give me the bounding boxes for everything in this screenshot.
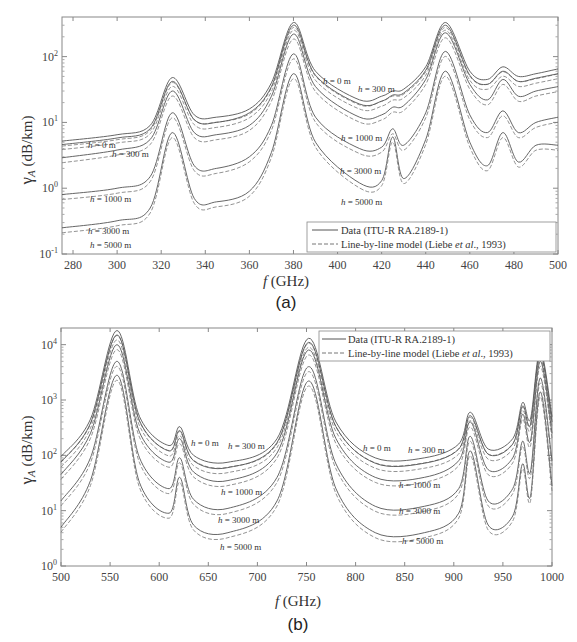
height-annotation: h = 3000 m (399, 506, 440, 516)
x-tick-label: 380 (284, 258, 302, 272)
panel-label-a: (a) (276, 293, 297, 312)
panel-label-b: (b) (288, 615, 309, 634)
height-annotation: h = 5000 m (402, 536, 443, 546)
x-tick-label: 420 (373, 258, 391, 272)
height-annotation: h = 3000 m (218, 515, 259, 525)
annotations-b: h = 0 mh = 300 mh = 1000 mh = 3000 mh = … (191, 438, 445, 552)
curves-a (62, 22, 558, 232)
height-annotation: h = 0 m (363, 443, 391, 453)
x-axis-label-b: f (GHz) (275, 593, 321, 610)
height-annotation: h = 0 m (323, 76, 351, 86)
x-tick-label: 650 (199, 570, 217, 584)
legend-a: Data (ITU-R RA.2189-1) Line-by-line mode… (307, 222, 556, 252)
x-tick-label: 440 (417, 258, 435, 272)
height-annotation: h = 1000 m (221, 487, 262, 497)
figure: 28030032034036038040042044046048050010-1… (0, 0, 577, 642)
chart-b: 5005506006507007508008509009501000100101… (17, 328, 564, 634)
x-tick-label: 360 (240, 258, 258, 272)
y-tick-label: 101 (41, 503, 57, 518)
x-tick-label: 750 (298, 570, 316, 584)
x-tick-label: 460 (461, 258, 479, 272)
legend-b: Data (ITU-R RA.2189-1) Line-by-line mode… (319, 331, 550, 361)
legend-entry-data: Data (ITU-R RA.2189-1) (341, 225, 449, 237)
data-curve (62, 33, 558, 158)
x-tick-label: 340 (196, 258, 214, 272)
legend-entry-model: Line-by-line model (Liebe et al., 1993) (348, 348, 513, 360)
y-tick-label: 102 (42, 49, 58, 64)
y-tick-label: 104 (41, 337, 57, 352)
height-annotation: h = 1000 m (90, 194, 131, 204)
x-tick-label: 600 (150, 570, 168, 584)
height-annotation: h = 3000 m (340, 166, 381, 176)
data-curve (62, 22, 558, 141)
y-tick-label: 101 (42, 114, 58, 129)
x-axis-label-a: f (GHz) (263, 273, 309, 290)
data-curve (62, 25, 558, 144)
x-tick-label: 320 (152, 258, 170, 272)
x-tick-label: 300 (108, 258, 126, 272)
x-tick-label: 950 (494, 570, 512, 584)
x-tick-label: 280 (64, 258, 82, 272)
height-annotation: h = 300 m (408, 445, 445, 455)
y-tick-label: 103 (41, 392, 57, 407)
x-tick-label: 900 (445, 570, 463, 584)
ticks-b: 5005506006507007508008509009501000100101… (41, 328, 564, 584)
height-annotation: h = 0 m (191, 438, 219, 448)
height-annotation: h = 1000 m (341, 133, 382, 143)
legend-entry-data: Data (ITU-R RA.2189-1) (348, 334, 456, 346)
x-tick-label: 850 (396, 570, 414, 584)
x-tick-label: 400 (329, 258, 347, 272)
height-annotation: h = 300 m (228, 441, 265, 451)
x-tick-label: 1000 (540, 570, 564, 584)
data-curve (62, 51, 558, 194)
model-curve (62, 38, 558, 163)
x-tick-label: 500 (549, 258, 567, 272)
x-tick-label: 480 (505, 258, 523, 272)
y-axis-label-a: γA (dB/km) (17, 116, 37, 186)
height-annotation: h = 3000 m (88, 226, 129, 236)
x-tick-label: 700 (248, 570, 266, 584)
x-tick-label: 500 (52, 570, 70, 584)
y-tick-label: 10-1 (39, 246, 58, 261)
legend-entry-model: Line-by-line model (Liebe et al., 1993) (341, 239, 506, 251)
chart-a: 28030032034036038040042044046048050010-1… (17, 17, 567, 312)
height-annotation: h = 5000 m (90, 240, 131, 250)
height-annotation: h = 300 m (112, 149, 149, 159)
height-annotation: h = 300 m (358, 84, 395, 94)
x-tick-label: 800 (347, 570, 365, 584)
height-annotation: h = 1000 m (399, 480, 440, 490)
y-axis-label-b: γA (dB/km) (17, 416, 37, 486)
y-tick-label: 102 (41, 447, 57, 462)
height-annotation: h = 5000 m (341, 197, 382, 207)
height-annotation: h = 5000 m (220, 542, 261, 552)
y-tick-label: 100 (42, 180, 58, 195)
x-tick-label: 550 (101, 570, 119, 584)
curves-b (61, 331, 552, 542)
